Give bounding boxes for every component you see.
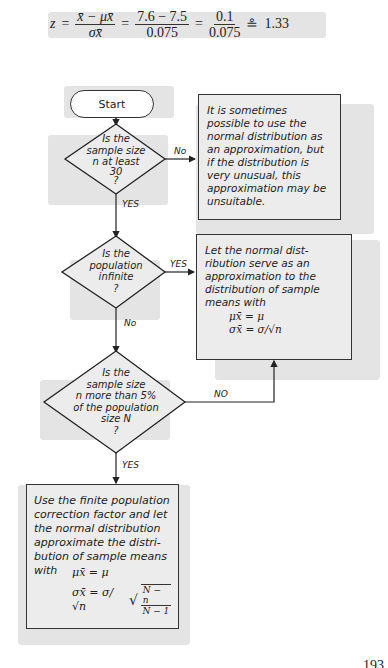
- decision2-no-label: No: [124, 318, 136, 328]
- finite-sd-formula: σx̄ = σ/√n √ N − n N − 1: [34, 584, 171, 616]
- result-finite-population: Use the finite population correction fac…: [26, 484, 179, 629]
- start-terminal: Start: [70, 90, 154, 118]
- decision1-yes-label: YES: [122, 199, 139, 209]
- result-infinite-population: Let the normal dist-ribution serve as an…: [196, 234, 352, 360]
- decision3-yes-label: YES: [122, 460, 139, 470]
- note-non-normal: It is sometimes possible to use the norm…: [198, 94, 341, 220]
- decision3-text: Is the sample size n more than 5% of the…: [64, 367, 168, 436]
- decision1-text: Is the sample size n at least 30 ?: [76, 133, 156, 185]
- decision2-yes-label: YES: [170, 259, 187, 269]
- decision2-text: Is the population infinite ?: [78, 248, 154, 294]
- decision3-no-label: NO: [214, 389, 228, 399]
- sd-formula: σx̄ = σ/√n: [205, 323, 343, 336]
- decision1-no-label: No: [174, 146, 186, 156]
- page-number: 193: [363, 658, 384, 668]
- mean-formula: μx̄ = μ: [205, 310, 343, 323]
